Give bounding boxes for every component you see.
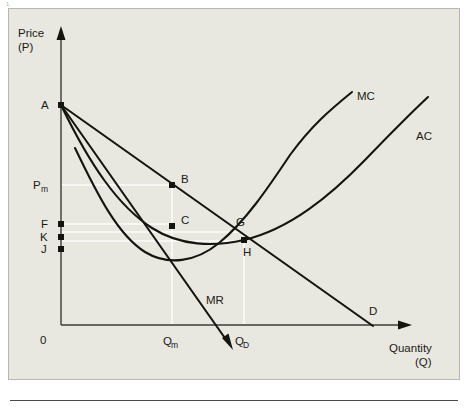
x-axis-label-line2: (Q)	[415, 356, 432, 368]
bottom-divider-rule	[10, 400, 458, 401]
x-axis-label-line1: Quantity	[389, 342, 432, 354]
demand-curve	[61, 105, 373, 326]
y-tick-label-j: J	[41, 243, 47, 255]
diagram-page: 1	[0, 0, 469, 419]
point-h-dot	[241, 237, 247, 243]
point-b-dot	[169, 182, 175, 188]
curve-label-mr: MR	[206, 294, 224, 306]
y-tick-label-k: K	[40, 231, 48, 243]
point-label-g: G	[236, 216, 245, 228]
point-a-dot	[58, 102, 64, 108]
y-axis-label-line2: (P)	[18, 41, 34, 53]
curve-label-d: D	[369, 305, 377, 317]
y-tick-label-pm: P	[33, 179, 41, 191]
axes-group	[57, 26, 413, 330]
x-tick-sublabel-qm: m	[171, 340, 178, 350]
x-axis-arrowhead	[398, 321, 412, 330]
y-tick-sublabel-pm: m	[41, 184, 48, 194]
curve-label-mc: MC	[357, 90, 375, 102]
tick-dot-f	[58, 221, 64, 227]
point-c-dot	[169, 223, 175, 229]
curve-label-ac: AC	[416, 130, 432, 142]
origin-label: 0	[40, 334, 46, 346]
point-label-a: A	[41, 99, 49, 111]
marginal-cost-curve	[75, 92, 352, 260]
y-axis-label-line1: Price	[18, 27, 44, 39]
x-tick-sublabel-qd: D	[243, 340, 249, 350]
tick-dot-k	[58, 234, 64, 240]
y-axis-arrowhead	[57, 26, 66, 40]
point-label-h: H	[243, 246, 251, 258]
economics-chart: Price (P) Quantity (Q) 0 P m F K J Q m Q…	[0, 0, 469, 419]
tick-dot-j	[58, 246, 64, 252]
y-tick-label-f: F	[41, 218, 48, 230]
point-label-c: C	[181, 214, 189, 226]
point-label-b: B	[181, 173, 189, 185]
